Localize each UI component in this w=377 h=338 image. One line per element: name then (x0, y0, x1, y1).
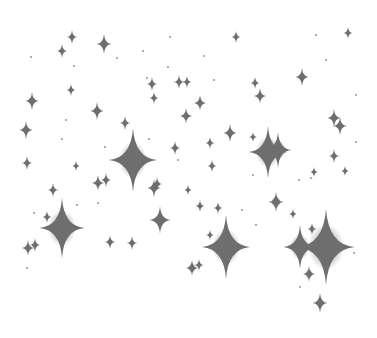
tiny-dot (26, 267, 28, 269)
tiny-dot (142, 50, 144, 52)
sparkle-star-icon (251, 77, 260, 89)
sparkle-star-icon (289, 209, 297, 219)
tiny-dot (65, 119, 67, 121)
tiny-dot (310, 177, 312, 179)
sparkle-star-icon (202, 215, 250, 279)
tiny-dot (76, 204, 78, 206)
sparkle-star-icon (22, 240, 34, 256)
sparkle-star-icon (303, 266, 315, 282)
sparkle-star-icon (19, 121, 33, 139)
tiny-dot (148, 138, 150, 140)
sparkle-star-icon (120, 116, 131, 130)
sparkle-star-icon (344, 27, 353, 39)
tiny-dot (177, 159, 179, 161)
sparkle-star-icon (206, 137, 215, 149)
sparkle-star-icon (206, 230, 214, 240)
sparkle-star-icon (214, 202, 223, 214)
sparkle-star-icon (25, 92, 39, 110)
tiny-dot (241, 209, 243, 211)
sparkle-star-icon (186, 260, 198, 276)
sparkle-star-icon (127, 236, 138, 250)
sparkle-star-icon (48, 183, 59, 197)
tiny-dot (299, 286, 301, 288)
tiny-dot (169, 36, 171, 38)
tiny-dot (73, 65, 75, 67)
sparkle-star-icon (329, 149, 340, 163)
sparkle-star-icon (147, 179, 161, 197)
sparkles-artwork (0, 0, 377, 338)
sparkle-star-icon (72, 161, 80, 171)
sparkle-star-icon (22, 156, 33, 170)
tiny-dot (61, 138, 63, 140)
tiny-dot (315, 34, 317, 36)
tiny-dot (355, 141, 357, 143)
sparkle-star-icon (269, 192, 284, 212)
sparkle-star-icon (196, 200, 205, 212)
tiny-dot (33, 212, 35, 214)
sparkle-star-icon (341, 166, 349, 176)
sparkle-star-icon (254, 88, 266, 104)
tiny-dot (97, 202, 99, 204)
sparkle-star-icon (97, 34, 112, 54)
sparkle-star-icon (223, 124, 237, 142)
sparkle-star-icon (194, 95, 206, 111)
sparkle-star-icon (150, 206, 171, 234)
tiny-dot (203, 55, 205, 57)
tiny-dot (30, 56, 32, 58)
tiny-dot (116, 57, 118, 59)
tiny-dot (355, 94, 357, 96)
sparkle-star-icon (67, 30, 78, 44)
sparkle-star-icon (57, 44, 68, 58)
tiny-dot (252, 174, 254, 176)
sparkle-star-icon (105, 235, 116, 249)
tiny-dot (213, 79, 215, 81)
tiny-dot (167, 66, 169, 68)
sparkle-star-icon (90, 102, 104, 120)
tiny-dot (298, 179, 300, 181)
sparkle-star-icon (232, 31, 241, 43)
sparkle-star-icon (208, 160, 217, 172)
sparkle-star-icon (40, 198, 85, 258)
sparkle-star-icon (249, 132, 257, 142)
sparkle-star-icon (313, 293, 328, 313)
sparkle-star-icon (310, 167, 318, 177)
sparkle-star-icon (30, 238, 41, 252)
tiny-dot (353, 252, 355, 254)
sparkle-star-layer (19, 27, 354, 313)
sparkle-star-icon (170, 141, 181, 155)
tiny-dot (104, 146, 106, 148)
sparkle-star-icon (183, 76, 192, 88)
sparkle-star-icon (101, 173, 112, 187)
sparkle-star-icon (92, 175, 104, 191)
sparkle-star-icon (67, 84, 76, 96)
sparkle-illustration (0, 0, 377, 338)
sparkle-star-icon (150, 92, 159, 104)
sparkle-star-icon (184, 185, 192, 195)
sparkle-star-icon (109, 128, 157, 192)
sparkle-star-icon (295, 68, 309, 86)
tiny-dot (325, 59, 327, 61)
sparkle-star-icon (180, 108, 192, 124)
tiny-dot (255, 224, 257, 226)
tiny-dot (146, 77, 148, 79)
sparkle-glow-layer (25, 74, 344, 307)
sparkle-star-icon (147, 77, 158, 91)
